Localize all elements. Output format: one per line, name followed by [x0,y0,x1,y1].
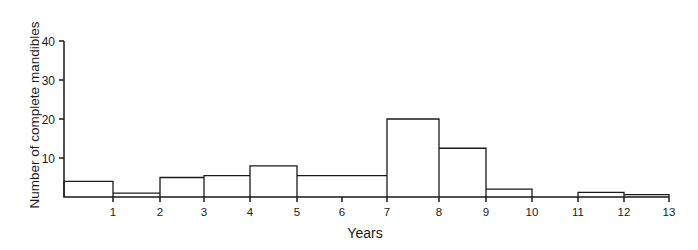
x-tick-label: 9 [483,206,489,218]
x-tick-label: 7 [384,206,390,218]
x-tick-label: 2 [157,206,163,218]
y-tick-label: 10 [42,152,56,166]
y-tick-label: 20 [42,113,56,127]
axis-lines [64,41,669,197]
x-tick-label: 11 [572,206,584,218]
x-tick-label: 12 [618,206,631,218]
x-tick-label: 6 [339,206,345,218]
x-tick-label: 3 [201,206,207,218]
y-axis-label: Number of complete mandibles [27,21,42,208]
x-tick-label: 1 [110,206,116,218]
histogram-steps [64,119,669,197]
x-tick-label: 13 [663,206,676,218]
x-tick-label: 8 [436,206,442,218]
x-tick-label: 4 [247,206,254,218]
histogram-chart: Number of complete mandibles 10203040 12… [0,0,698,250]
x-axis-label: Years [347,225,382,241]
y-axis-ticks: 10203040 [42,35,64,166]
y-tick-label: 40 [42,35,56,49]
x-tick-label: 10 [526,206,539,218]
x-tick-label: 5 [294,206,300,218]
y-tick-label: 30 [42,74,56,88]
y-axis-label-group: Number of complete mandibles [27,21,42,208]
histogram-outline [64,119,669,197]
axes [64,41,669,197]
chart-svg: Number of complete mandibles 10203040 12… [0,0,698,250]
x-axis-ticks: 12345678910111213 [110,197,676,218]
